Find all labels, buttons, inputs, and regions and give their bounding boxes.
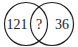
right-value: 36 (55, 17, 69, 32)
left-value: 121 (7, 17, 28, 32)
venn-diagram: 121 ? 36 (0, 0, 78, 47)
intersection-value: ? (36, 17, 42, 32)
